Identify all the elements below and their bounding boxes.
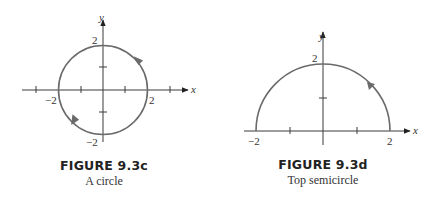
tick-label-x-neg: −2 [248, 135, 260, 147]
tick-label-y-pos: 2 [92, 34, 98, 46]
figure-9-3d-plot: y x 2 −2 2 [244, 30, 418, 147]
tick-label-y-neg: −2 [86, 136, 98, 148]
figure-9-3c-plot: y x 2 −2 2 −2 [22, 11, 196, 148]
figure-subtitle: A circle [24, 174, 184, 189]
tick-label-y-pos: 2 [312, 52, 318, 64]
x-axis-label: x [412, 124, 418, 136]
direction-arrow-icon [134, 56, 144, 66]
figure-subtitle: Top semicircle [243, 173, 403, 188]
y-axis-label: y [318, 30, 324, 42]
figure-9-3c-caption: FIGURE 9.3c A circle [24, 158, 184, 189]
tick-label-x-pos: 2 [149, 94, 155, 106]
tick-label-x-pos: 2 [387, 135, 393, 147]
figure-title: FIGURE 9.3d [243, 157, 403, 172]
tick-label-x-neg: −2 [45, 94, 57, 106]
y-axis-label: y [98, 11, 104, 23]
figure-title: FIGURE 9.3c [24, 158, 184, 173]
direction-arrow-icon [367, 82, 375, 90]
x-axis-label: x [190, 83, 196, 95]
figure-9-3d-caption: FIGURE 9.3d Top semicircle [243, 157, 403, 188]
